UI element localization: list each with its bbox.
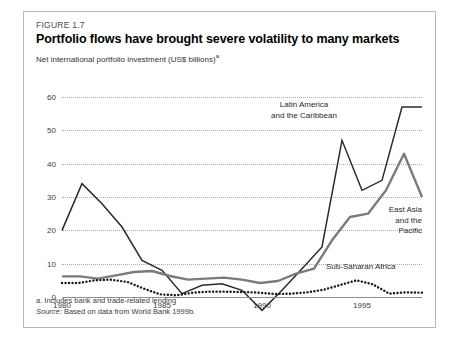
figure-subtitle-footnote-marker: a — [216, 53, 219, 59]
figure-label: FIGURE 1.7 — [36, 20, 85, 30]
x-axis-tick-label: 1990 — [253, 301, 271, 310]
series-label-east-asia-line2: and the — [360, 216, 422, 227]
figure-source-text: Based on data from World Bank 1999b. — [62, 307, 195, 316]
figure-source: Source: Based on data from World Bank 19… — [36, 306, 195, 317]
figure-footnote: a. Includes bank and trade-related lendi… — [36, 295, 195, 306]
series-label-east-asia-line3: Pacific — [360, 226, 422, 237]
x-axis-tick-label: 1995 — [353, 301, 371, 310]
chart-plot-area: 0102030405060 1980198519901995 Latin Ame… — [36, 70, 424, 296]
series-label-sub-saharan-africa: Sub-Saharan Africa — [326, 262, 395, 273]
series-label-east-asia: East Asia and the Pacific — [360, 205, 422, 237]
figure-title: Portfolio flows have brought severe vola… — [36, 32, 399, 46]
series-label-latin-america-line1: Latin America — [262, 100, 346, 111]
figure-panel: FIGURE 1.7 Portfolio flows have brought … — [23, 11, 436, 328]
series-label-latin-america: Latin America and the Caribbean — [262, 100, 346, 121]
figure-source-prefix: Source: — [36, 307, 62, 316]
figure-subtitle-text: Net international portfolio investment (… — [36, 55, 216, 64]
series-label-east-asia-line1: East Asia — [360, 205, 422, 216]
series-label-latin-america-line2: and the Caribbean — [262, 111, 346, 122]
figure-subtitle: Net international portfolio investment (… — [36, 53, 219, 64]
figure-notes: a. Includes bank and trade-related lendi… — [36, 295, 195, 317]
series-line-sub-saharan-africa — [62, 280, 422, 296]
